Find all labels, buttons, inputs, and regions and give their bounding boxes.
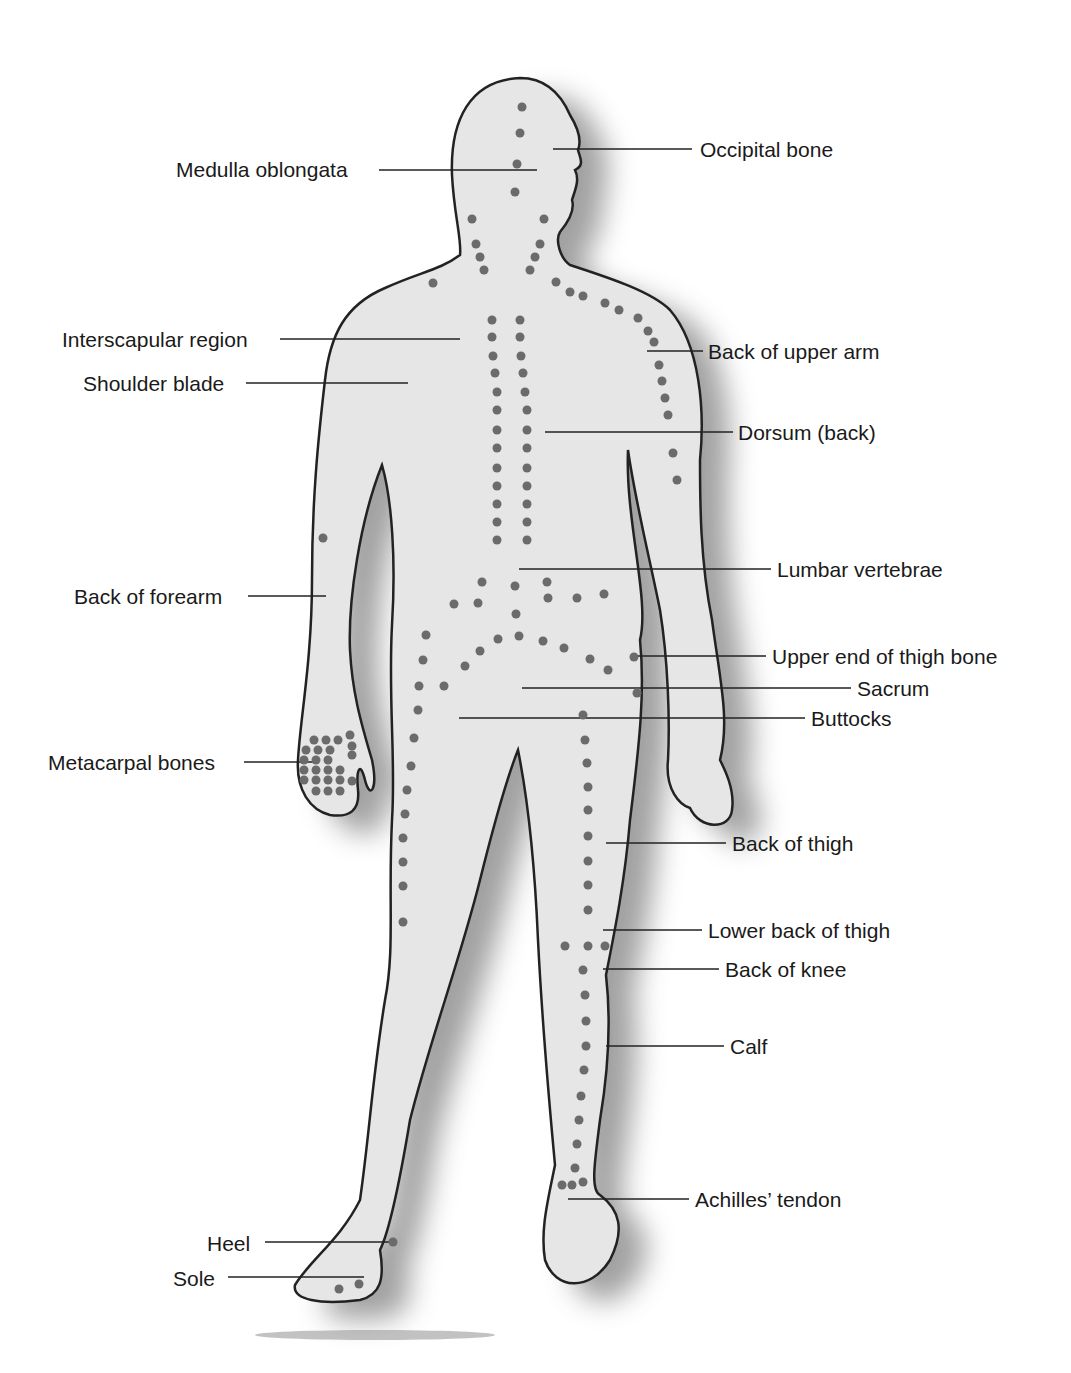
point-dot xyxy=(335,1285,344,1294)
point-dot xyxy=(552,278,561,287)
point-dot xyxy=(399,834,408,843)
point-dot xyxy=(348,742,357,751)
point-dot xyxy=(581,991,590,1000)
point-dot xyxy=(401,810,410,819)
point-dot xyxy=(669,449,678,458)
point-dot xyxy=(346,731,355,740)
point-dot xyxy=(584,857,593,866)
point-dot xyxy=(324,787,333,796)
point-dot xyxy=(494,635,503,644)
point-dot xyxy=(300,766,309,775)
point-dot xyxy=(414,706,423,715)
point-dot xyxy=(581,736,590,745)
point-dot xyxy=(513,160,522,169)
point-dot xyxy=(517,352,526,361)
point-dot xyxy=(493,444,502,453)
back-of-thigh-label: Back of thigh xyxy=(732,832,853,856)
point-dot xyxy=(644,327,653,336)
lumbar-vertebrae-label: Lumbar vertebrae xyxy=(777,558,943,582)
point-dot xyxy=(584,906,593,915)
point-dot xyxy=(493,388,502,397)
point-dot xyxy=(543,578,552,587)
point-dot xyxy=(326,746,335,755)
point-dot xyxy=(312,787,321,796)
point-dot xyxy=(312,756,321,765)
point-dot xyxy=(476,647,485,656)
point-dot xyxy=(491,369,500,378)
point-dot xyxy=(488,316,497,325)
point-dot xyxy=(575,1116,584,1125)
point-dot xyxy=(478,578,487,587)
sacrum-label: Sacrum xyxy=(857,677,929,701)
point-dot xyxy=(601,299,610,308)
point-dot xyxy=(523,536,532,545)
point-dot xyxy=(512,610,521,619)
point-dot xyxy=(539,637,548,646)
point-dot xyxy=(324,776,333,785)
point-dot xyxy=(312,776,321,785)
point-dot xyxy=(348,751,357,760)
point-dot xyxy=(488,333,497,342)
point-dot xyxy=(493,406,502,415)
point-dot xyxy=(468,215,477,224)
point-dot xyxy=(526,266,535,275)
point-dot xyxy=(523,426,532,435)
metacarpal-bones-label: Metacarpal bones xyxy=(48,751,215,775)
point-dot xyxy=(476,253,485,262)
point-dot xyxy=(523,444,532,453)
point-dot xyxy=(389,1238,398,1247)
point-dot xyxy=(579,711,588,720)
point-dot xyxy=(324,756,333,765)
point-dot xyxy=(630,653,639,662)
point-dot xyxy=(480,266,489,275)
point-dot xyxy=(314,746,323,755)
sole-label: Sole xyxy=(173,1267,215,1291)
point-dot xyxy=(580,1066,589,1075)
point-dot xyxy=(582,1042,591,1051)
point-dot xyxy=(523,500,532,509)
point-dot xyxy=(511,188,520,197)
buttocks-label: Buttocks xyxy=(811,707,892,731)
point-dot xyxy=(519,369,528,378)
point-dot xyxy=(319,534,328,543)
point-dot xyxy=(440,682,449,691)
point-dot xyxy=(403,786,412,795)
point-dot xyxy=(493,518,502,527)
point-dot xyxy=(579,966,588,975)
point-dot xyxy=(615,306,624,315)
point-dot xyxy=(348,777,357,786)
point-dot xyxy=(604,666,613,675)
point-dot xyxy=(531,253,540,262)
point-dot xyxy=(472,240,481,249)
point-dot xyxy=(429,279,438,288)
point-dot xyxy=(515,632,524,641)
point-dot xyxy=(399,858,408,867)
achilles-tendon-label: Achilles’ tendon xyxy=(695,1188,841,1212)
point-dot xyxy=(560,644,569,653)
point-dot xyxy=(584,783,593,792)
point-dot xyxy=(571,1164,580,1173)
point-dot xyxy=(650,338,659,347)
point-dot xyxy=(573,594,582,603)
point-dot xyxy=(579,1178,588,1187)
point-dot xyxy=(655,361,664,370)
point-dot xyxy=(544,594,553,603)
point-dot xyxy=(664,411,673,420)
point-dot xyxy=(493,536,502,545)
point-dot xyxy=(300,776,309,785)
ground-shadow xyxy=(255,1330,495,1340)
point-dot xyxy=(633,689,642,698)
point-dot xyxy=(415,682,424,691)
point-dot xyxy=(302,746,311,755)
point-dot xyxy=(568,1181,577,1190)
heel-label: Heel xyxy=(207,1232,250,1256)
point-dot xyxy=(583,759,592,768)
point-dot xyxy=(658,377,667,386)
back-of-forearm-label: Back of forearm xyxy=(74,585,222,609)
back-of-knee-label: Back of knee xyxy=(725,958,846,982)
point-dot xyxy=(355,1280,364,1289)
point-dot xyxy=(523,464,532,473)
point-dot xyxy=(516,129,525,138)
point-dot xyxy=(586,655,595,664)
point-dot xyxy=(573,1140,582,1149)
